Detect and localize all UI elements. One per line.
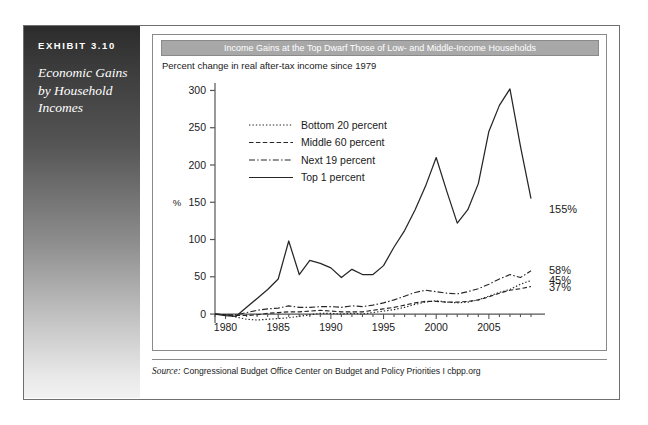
chart-title: Income Gains at the Top Dwarf Those of L… (161, 40, 599, 56)
y-axis-tick-label: 250 (188, 121, 206, 133)
y-axis-tick-label: 100 (188, 233, 206, 245)
source-label: Source: (152, 366, 181, 376)
chart-card: Income Gains at the Top Dwarf Those of L… (152, 34, 607, 351)
y-axis-tick-label: 300 (188, 84, 206, 96)
exhibit-frame: EXHIBIT 3.10 Economic Gains by Household… (23, 25, 620, 400)
legend-label-3: Top 1 percent (301, 171, 365, 183)
series-line-2 (215, 271, 531, 315)
x-axis-tick-label: 1995 (372, 321, 396, 333)
series-line-1 (215, 286, 531, 315)
line-chart-svg: 050100150200250300%198019851990199520002… (153, 73, 606, 350)
chart-plot-area: 050100150200250300%198019851990199520002… (153, 73, 606, 350)
exhibit-caption: Economic Gains by Household Incomes (38, 64, 134, 117)
y-axis-tick-label: 150 (188, 196, 206, 208)
x-axis-tick-label: 2000 (425, 321, 449, 333)
source-note: Source: Congressional Budget Office Cent… (152, 366, 481, 376)
legend-label-2: Next 19 percent (301, 154, 375, 166)
x-axis-tick-label: 2005 (477, 321, 501, 333)
y-axis-tick-label: 0 (200, 308, 206, 320)
y-axis-unit-label: % (173, 197, 182, 208)
source-divider (152, 359, 607, 360)
x-axis-tick-label: 1990 (319, 321, 343, 333)
exhibit-sidebar: EXHIBIT 3.10 Economic Gains by Household… (24, 26, 140, 398)
series-end-label: 37% (549, 281, 571, 293)
y-axis-tick-label: 200 (188, 159, 206, 171)
y-axis-tick-label: 50 (194, 270, 206, 282)
exhibit-number-label: EXHIBIT 3.10 (38, 40, 116, 51)
x-axis-tick-label: 1985 (267, 321, 291, 333)
series-end-label: 155% (549, 203, 577, 215)
x-axis-tick-label: 1980 (214, 321, 238, 333)
source-text: Congressional Budget Office Center on Bu… (181, 366, 481, 376)
exhibit-page: EXHIBIT 3.10 Economic Gains by Household… (0, 0, 648, 425)
legend-label-1: Middle 60 percent (301, 136, 385, 148)
chart-subtitle: Percent change in real after-tax income … (162, 60, 376, 71)
legend-label-0: Bottom 20 percent (301, 119, 387, 131)
